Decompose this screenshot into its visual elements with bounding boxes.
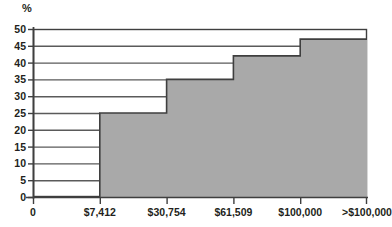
x-tick-label: $30,754 (148, 207, 186, 218)
x-tick-label: $100,000 (278, 207, 322, 218)
x-tick-label: $7,412 (84, 207, 116, 218)
x-tick-label: 0 (30, 207, 36, 218)
x-tick-label: >$100,000 (342, 207, 392, 218)
x-axis-ticks (34, 198, 367, 204)
y-axis-ticks (28, 30, 33, 198)
x-tick-label: $61,509 (214, 207, 252, 218)
